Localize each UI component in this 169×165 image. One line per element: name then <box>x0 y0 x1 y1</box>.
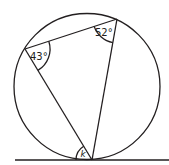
angle-label-a: 43° <box>30 51 48 62</box>
angle-label-k: k <box>81 149 87 159</box>
geometry-diagram: 43° 52° k <box>0 0 169 165</box>
circle <box>14 14 160 160</box>
angle-label-b: 52° <box>95 27 113 38</box>
side-ac <box>25 49 92 160</box>
